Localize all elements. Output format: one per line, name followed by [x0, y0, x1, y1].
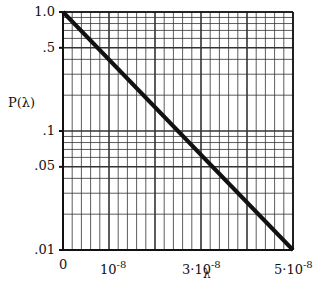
x-axis-label: λ: [203, 268, 211, 281]
y-axis-label: P(λ): [8, 96, 35, 109]
y-tick-label-0-05: .05: [3, 159, 55, 172]
x-tick-label-5e-8: 5·10-8: [274, 258, 313, 276]
y-tick-label-1: 1.0: [3, 5, 55, 18]
x-tick-label-1e-8: 10-8: [100, 258, 126, 276]
y-tick-label-0-5: .5: [3, 41, 55, 54]
y-tick-label-0-01: .01: [3, 243, 55, 256]
x-tick-label-0: 0: [59, 258, 67, 271]
y-tick-label-0-1: .1: [3, 124, 55, 137]
x-tick-label-3e-8: 3·10-8: [182, 258, 221, 276]
